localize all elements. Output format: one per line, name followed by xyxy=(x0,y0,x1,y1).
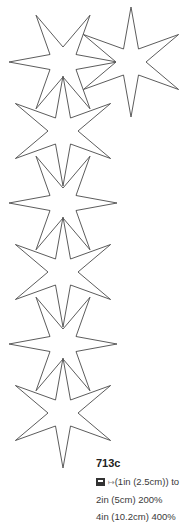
star-shape xyxy=(15,358,110,468)
photocopy-icon xyxy=(96,478,105,486)
star-shape xyxy=(15,217,110,327)
enlarge-200-text: 2in (5cm) 200% xyxy=(96,491,186,508)
star-outline-pattern xyxy=(0,0,186,525)
arrow-icon: ↦ xyxy=(108,478,115,487)
original-size-text: (1in (2.5cm)) to xyxy=(115,476,179,487)
star-shape xyxy=(15,76,110,186)
enlarge-400-text: 4in (10.2cm) 400% xyxy=(96,508,186,525)
pattern-number: 713c xyxy=(96,456,186,470)
enlarge-instruction: ↦(1in (2.5cm)) to xyxy=(96,473,186,491)
pattern-caption: 713c ↦(1in (2.5cm)) to 2in (5cm) 200% 4i… xyxy=(96,456,186,525)
